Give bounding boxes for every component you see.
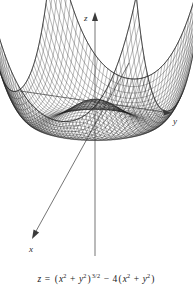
- wireframe-mesh: [0, 0, 193, 141]
- x-axis-arrowhead: [32, 230, 39, 239]
- surface-plot-figure: z y x z = (x2 + y2)3/2 − 4(x2 + y2): [0, 0, 193, 303]
- figure-caption: z = (x2 + y2)3/2 − 4(x2 + y2): [0, 274, 193, 284]
- x-axis-label: x: [28, 244, 33, 254]
- axes-group: [20, 12, 171, 256]
- axis-labels: z y x: [28, 13, 177, 254]
- z-axis-arrowhead: [92, 12, 98, 21]
- z-axis-label: z: [83, 13, 88, 23]
- surface-plot-canvas: z y x: [0, 0, 193, 262]
- y-axis-label: y: [172, 116, 177, 126]
